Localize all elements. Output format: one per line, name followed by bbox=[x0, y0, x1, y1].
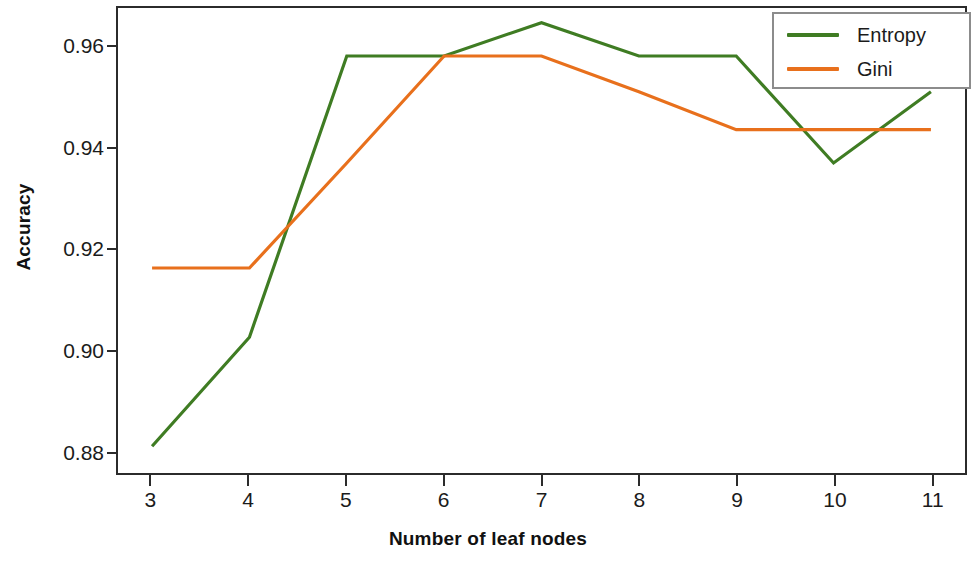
x-axis-tick-label: 7 bbox=[536, 489, 548, 510]
y-axis-tick-label: 0.96 bbox=[63, 35, 104, 56]
x-axis-title: Number of leaf nodes bbox=[0, 528, 976, 550]
y-axis-tick-label: 0.92 bbox=[63, 238, 104, 259]
x-axis-tick-label: 9 bbox=[731, 489, 743, 510]
legend: EntropyGini bbox=[772, 12, 971, 89]
x-axis-tick-mark bbox=[541, 475, 543, 486]
line-chart-figure: 0.880.900.920.940.96 34567891011 Number … bbox=[0, 0, 976, 563]
x-axis-tick-label: 5 bbox=[340, 489, 352, 510]
legend-label: Gini bbox=[857, 59, 893, 79]
x-axis-tick-mark bbox=[443, 475, 445, 486]
x-axis-tick-mark bbox=[149, 475, 151, 486]
legend-swatch-entropy bbox=[787, 33, 839, 37]
x-axis-tick-mark bbox=[932, 475, 934, 486]
legend-item-gini[interactable]: Gini bbox=[774, 52, 969, 86]
x-axis-tick-mark bbox=[345, 475, 347, 486]
x-axis-tick-mark bbox=[638, 475, 640, 486]
legend-swatch-gini bbox=[787, 67, 839, 71]
x-axis-tick-label: 3 bbox=[144, 489, 156, 510]
x-axis-tick-mark bbox=[736, 475, 738, 486]
legend-item-entropy[interactable]: Entropy bbox=[774, 18, 969, 52]
y-axis-tick-label: 0.88 bbox=[63, 442, 104, 463]
x-axis-tick-label: 6 bbox=[438, 489, 450, 510]
x-axis-tick-mark bbox=[247, 475, 249, 486]
x-axis-tick-label: 4 bbox=[242, 489, 254, 510]
y-axis-tick-label: 0.94 bbox=[63, 137, 104, 158]
y-axis-title: Accuracy bbox=[13, 167, 35, 287]
x-axis-tick-mark bbox=[834, 475, 836, 486]
x-axis-tick-label: 11 bbox=[922, 489, 944, 510]
x-axis-tick-label: 8 bbox=[633, 489, 645, 510]
legend-label: Entropy bbox=[857, 25, 926, 45]
x-axis-tick-label: 10 bbox=[823, 489, 846, 510]
y-axis-tick-label: 0.90 bbox=[63, 340, 104, 361]
